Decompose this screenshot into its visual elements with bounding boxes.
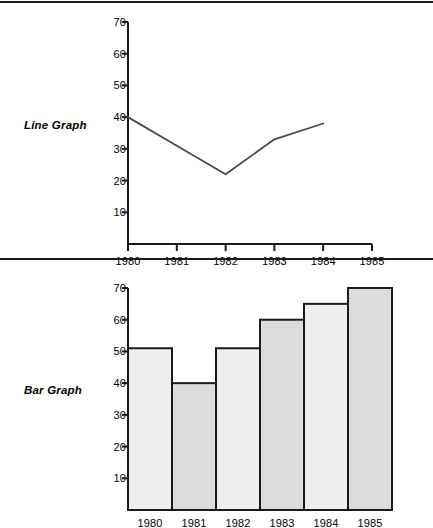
divider-middle <box>0 258 433 260</box>
bar-graph-panel: Bar Graph 70605040302010 198019811982198… <box>0 262 433 524</box>
bar <box>216 348 260 510</box>
bar <box>304 304 348 510</box>
bar-chart-svg <box>100 278 400 522</box>
bar <box>348 288 392 510</box>
line-graph-panel: Line Graph 70605040302010 19801981198219… <box>0 4 433 256</box>
line-chart-plot-area: 70605040302010 198019811982198319841985 <box>100 12 400 256</box>
bar-chart-plot-area: 70605040302010 198019811982198319841985 <box>100 278 400 522</box>
bar-graph-label: Bar Graph <box>24 384 82 396</box>
bar <box>260 320 304 510</box>
line-graph-label: Line Graph <box>24 119 87 131</box>
bar <box>128 348 172 510</box>
bar-chart-canvas <box>100 278 400 522</box>
line-chart-canvas <box>100 12 400 256</box>
bar <box>172 383 216 510</box>
divider-top <box>0 1 433 3</box>
line-chart-svg <box>100 12 400 256</box>
